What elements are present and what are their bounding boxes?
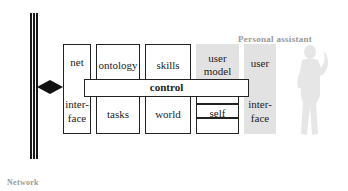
module-interface-label-1: inter- [63,98,91,110]
network-bar-left [30,13,32,159]
personal-assistant-label: Personal assistant [238,34,312,44]
module-user-interface-label-1: inter- [244,98,276,110]
module-net-label: net [63,56,91,68]
person-silhouette-icon [288,44,334,138]
module-self-label: self [196,107,239,119]
module-user-label: user [244,57,276,69]
control-bar: control [84,79,249,97]
module-user-model-label-1: user [196,52,239,64]
module-interface-label-2: face [63,112,91,124]
module-tasks-label: tasks [96,108,140,120]
network-bar-mid [33,13,35,159]
module-user-interface-label-2: face [244,112,276,124]
diamond-connector-icon [36,79,64,95]
module-ontology-label: ontology [96,59,140,71]
module-skills-label: skills [145,59,191,71]
network-label: Network [7,178,39,187]
module-user-model-label-2: model [196,65,239,77]
module-world-label: world [145,108,191,120]
self-stack-divider-1 [196,103,239,105]
